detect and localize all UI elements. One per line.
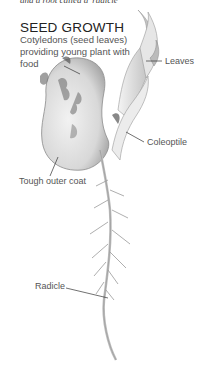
diagram-title: SEED GROWTH bbox=[20, 20, 124, 35]
root-system bbox=[90, 150, 130, 360]
radicle-leader bbox=[66, 288, 108, 298]
label-leaves: Leaves bbox=[165, 56, 194, 66]
seed bbox=[40, 56, 120, 170]
label-coleoptile: Coleoptile bbox=[147, 137, 187, 147]
label-outer-coat: Tough outer coat bbox=[19, 176, 86, 186]
diagram-subtitle: Cotyledons (seed leaves) providing young… bbox=[20, 34, 130, 70]
label-radicle: Radicle bbox=[35, 281, 65, 291]
coleoptile-leader bbox=[126, 132, 144, 142]
